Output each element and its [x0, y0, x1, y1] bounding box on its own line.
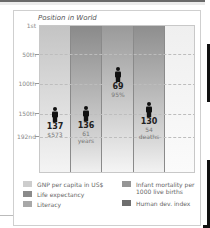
y-label-1st: 1st	[27, 22, 36, 29]
legend-swatch	[122, 200, 131, 206]
legend-label: Life expectancy	[37, 191, 84, 198]
legend-label: GNP per capita in US$	[37, 181, 103, 188]
person-icon	[51, 107, 59, 122]
right-edge-bar	[207, 44, 210, 102]
chart-panel: Position in World 1st 50th 100th 150th 1…	[13, 10, 201, 226]
y-label-150th: 150th	[18, 110, 36, 117]
person-icon	[114, 67, 122, 82]
legend-label-line2: 1000 live births	[136, 188, 195, 195]
legend-item-infant-mortality: Infant mortality per 1000 live births	[122, 181, 195, 195]
stat-value: 61	[71, 130, 101, 137]
marker-literacy: 69 95%	[103, 67, 133, 98]
chart-title: Position in World	[38, 14, 97, 22]
rank-value: 137	[40, 123, 70, 131]
column-infant-mortality	[134, 26, 165, 172]
legend-item-life-expectancy: Life expectancy	[23, 191, 84, 198]
column-life-expectancy	[71, 26, 102, 172]
legend-item-gnp: GNP per capita in US$	[23, 181, 103, 188]
stat-value: 54	[134, 126, 164, 133]
top-shadow	[0, 2, 205, 5]
legend-swatch	[23, 201, 32, 207]
legend-label: Literacy	[37, 201, 61, 208]
legend-item-literacy: Literacy	[23, 201, 61, 208]
y-label-100th: 100th	[18, 80, 36, 87]
legend-swatch	[122, 181, 131, 187]
y-label-50th: 50th	[22, 51, 36, 58]
marker-life-expectancy: 136 61 years	[71, 106, 101, 144]
left-divider-line	[0, 215, 14, 216]
right-edge-bar-lower	[207, 160, 210, 228]
stat-unit: deaths	[134, 133, 164, 140]
legend-label: Human dev. index	[136, 200, 190, 207]
y-label-192nd: 192nd	[17, 133, 36, 140]
rank-value: 130	[134, 118, 164, 126]
rank-value: 69	[103, 83, 133, 91]
legend-swatch	[23, 181, 32, 187]
legend-swatch	[23, 191, 32, 197]
marker-infant-mortality: 130 54 deaths	[134, 102, 164, 140]
marker-gnp: 137 $573	[40, 107, 70, 138]
column-human-dev-index	[165, 26, 195, 172]
stat-value: 95%	[103, 91, 133, 98]
plot-area: 137 $573 136 61 years 69 95% 130 54 deat…	[39, 25, 195, 173]
stat-value: $573	[40, 131, 70, 138]
legend-label-line1: Infant mortality per	[136, 181, 195, 188]
column-gnp	[40, 26, 71, 172]
stat-unit: years	[71, 137, 101, 144]
legend-item-human-dev-index: Human dev. index	[122, 200, 190, 207]
person-icon	[145, 102, 153, 117]
person-icon	[82, 106, 90, 121]
column-literacy	[102, 26, 134, 172]
rank-value: 136	[71, 122, 101, 130]
right-edge-foot	[203, 225, 210, 228]
gridline-50th	[39, 54, 195, 55]
